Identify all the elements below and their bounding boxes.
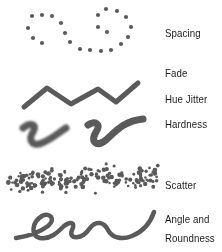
label-angle: Angle and [165,213,209,226]
hardness-stroke-icon [23,119,143,144]
label-roundness: Roundness [165,232,215,245]
label-hue-jitter: Hue Jitter [165,93,207,106]
label-hardness: Hardness [165,118,207,131]
label-spacing: Spacing [165,27,201,40]
label-scatter: Scatter [165,179,196,192]
angle-roundness-stroke-icon [16,212,154,238]
scatter-stroke-icon [6,162,160,194]
spacing-stroke-icon [26,7,133,53]
label-fade: Fade [165,67,187,80]
hue-jitter-stroke-icon [24,83,138,107]
